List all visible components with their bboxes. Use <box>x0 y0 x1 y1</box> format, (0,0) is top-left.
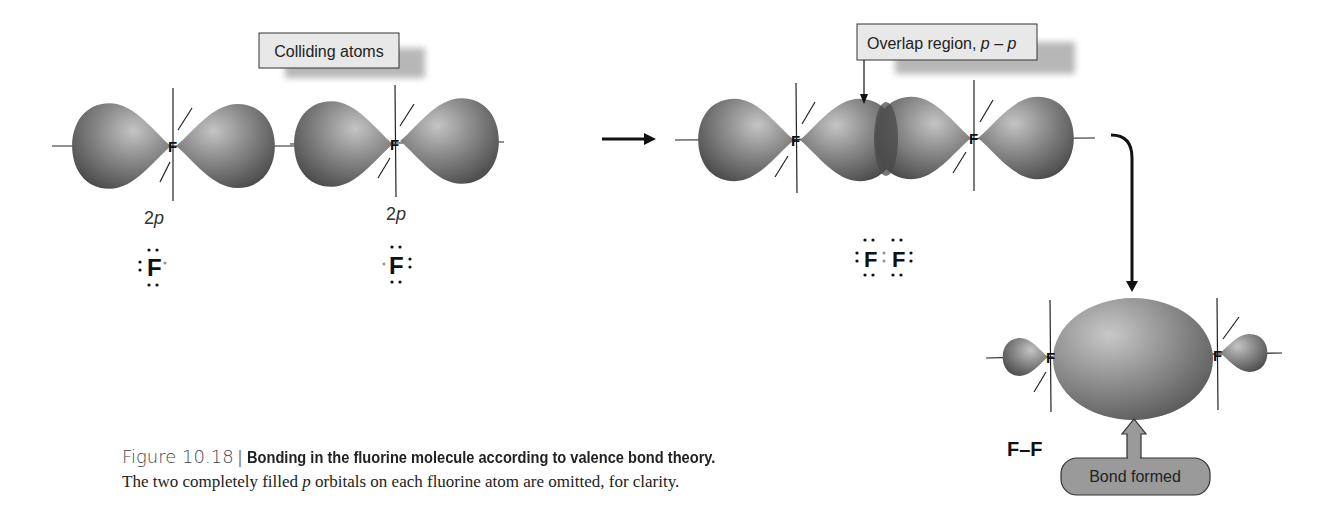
overlapping-orbitals: F F <box>675 80 1095 193</box>
figure-number: Figure 10.18 <box>122 446 234 467</box>
figure-title: Bonding in the fluorine molecule accordi… <box>247 446 715 470</box>
lewis-structure-f2: F <box>382 245 411 283</box>
reaction-arrow <box>602 133 656 145</box>
overlap-region <box>874 102 898 176</box>
svg-text:F: F <box>1213 347 1222 364</box>
svg-text:F: F <box>389 252 404 279</box>
orbital-label-2p-left: 2p <box>144 208 164 228</box>
svg-text:F: F <box>791 132 800 149</box>
svg-text:F: F <box>892 247 905 272</box>
colliding-atoms-callout: Colliding atoms <box>259 33 425 78</box>
bond-formed-callout: Bond formed <box>1061 419 1210 495</box>
fluorine-atom-1-orbital: F <box>52 88 297 201</box>
sigma-bond-orbital <box>1053 298 1213 420</box>
svg-text:F: F <box>390 136 399 153</box>
svg-text:F: F <box>969 130 978 147</box>
formation-arrow <box>1111 135 1138 292</box>
lewis-structure-f1: F <box>138 248 166 286</box>
svg-text:Colliding atoms: Colliding atoms <box>274 43 383 60</box>
svg-text:Overlap region, p – p: Overlap region, p – p <box>867 35 1017 52</box>
fluorine-atom-2-orbital: F <box>290 85 504 197</box>
molecule-formula: F–F <box>1007 438 1043 460</box>
figure-caption: Figure 10.18|Bonding in the fluorine mol… <box>122 445 791 494</box>
svg-text:F: F <box>864 247 877 272</box>
svg-text:F: F <box>1046 349 1055 366</box>
lewis-structure-f2-molecule: F F <box>855 238 912 276</box>
svg-text:Bond formed: Bond formed <box>1089 468 1181 485</box>
orbital-label-2p-right: 2p <box>386 204 406 224</box>
figure-description: The two completely filled p orbitals on … <box>122 470 791 494</box>
overlap-region-callout: Overlap region, p – p <box>857 24 1075 104</box>
svg-text:F: F <box>147 254 162 281</box>
atom-symbol-f1: F <box>168 138 177 155</box>
bonded-f2-orbital: F F <box>986 298 1282 420</box>
